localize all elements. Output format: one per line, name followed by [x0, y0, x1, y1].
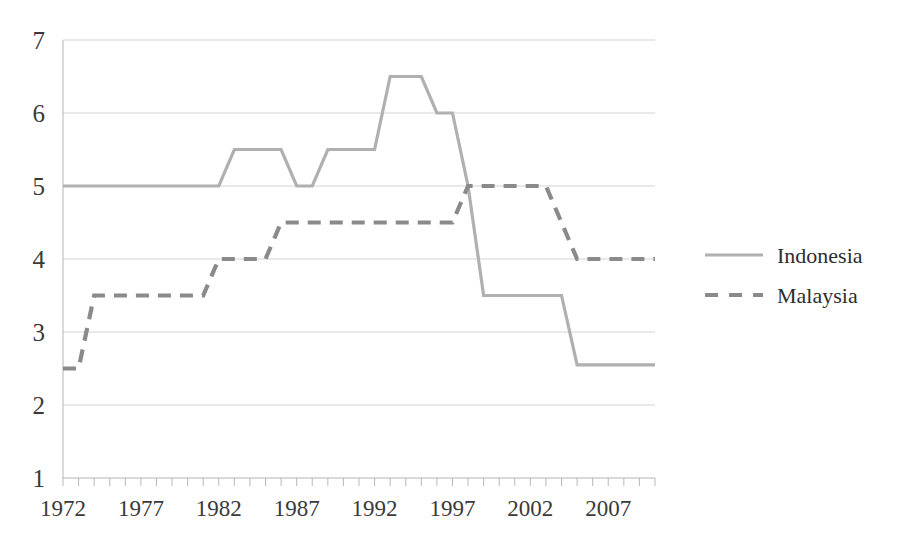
yaxis-labels-group: 1234567 — [33, 27, 46, 492]
y-axis-tick-label: 5 — [33, 173, 46, 200]
x-axis-tick-label: 1977 — [118, 496, 164, 521]
xaxis-labels-group: 19721977198219871992199720022007 — [40, 496, 631, 521]
y-axis-tick-label: 3 — [33, 319, 46, 346]
data-series-group — [63, 77, 655, 369]
x-axis-tick-label: 1987 — [274, 496, 320, 521]
line-chart-plot: 1234567 19721977198219871992199720022007… — [0, 0, 906, 539]
x-axis-tick-label: 1997 — [429, 496, 475, 521]
legend-label-indonesia: Indonesia — [777, 243, 863, 268]
chart-legend: IndonesiaMalaysia — [705, 243, 863, 308]
y-axis-tick-label: 6 — [33, 100, 46, 127]
x-axis-tick-label: 1972 — [40, 496, 86, 521]
y-axis-tick-label: 4 — [33, 246, 46, 273]
y-axis-tick-label: 1 — [33, 465, 46, 492]
x-axis-tick-label: 1992 — [352, 496, 398, 521]
x-axis-tick-label: 2002 — [507, 496, 553, 521]
y-axis-tick-label: 2 — [33, 392, 46, 419]
xaxis-ticks-group — [63, 478, 655, 486]
y-axis-tick-label: 7 — [33, 27, 46, 54]
legend-label-malaysia: Malaysia — [777, 283, 858, 308]
series-line-malaysia — [63, 186, 655, 369]
x-axis-tick-label: 1982 — [196, 496, 242, 521]
x-axis-tick-label: 2007 — [585, 496, 631, 521]
chart-figure: 1234567 19721977198219871992199720022007… — [0, 0, 906, 539]
